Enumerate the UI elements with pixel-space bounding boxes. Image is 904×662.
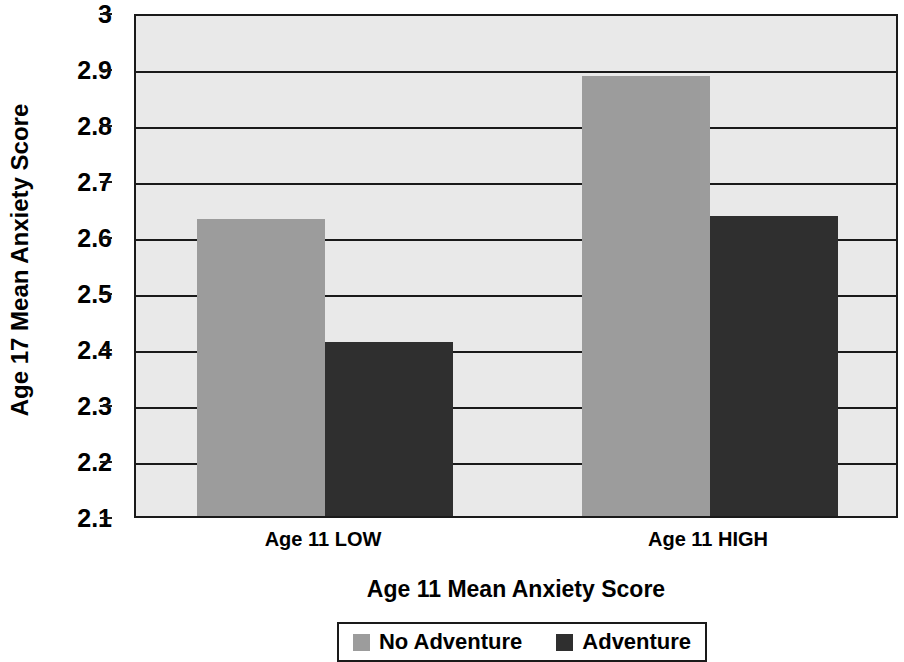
bar (710, 216, 838, 516)
x-axis-title: Age 11 Mean Anxiety Score (134, 576, 898, 603)
bar (582, 76, 710, 516)
legend-swatch-dark (556, 634, 573, 651)
x-axis-tick-label: Age 11 HIGH (588, 528, 828, 551)
y-axis-tick-mark (100, 69, 112, 71)
bar (325, 342, 453, 516)
legend-entry: Adventure (556, 629, 691, 655)
legend-entry: No Adventure (353, 629, 522, 655)
y-axis-tick-mark (100, 13, 112, 15)
gridline (136, 127, 896, 129)
y-axis-tick-mark (100, 293, 112, 295)
y-axis-title: Age 17 Mean Anxiety Score (0, 0, 40, 520)
gridline (136, 183, 896, 185)
bar (197, 219, 325, 516)
chart-legend: No AdventureAdventure (337, 622, 707, 662)
y-axis-tick-mark (100, 517, 112, 519)
legend-swatch-light (353, 634, 370, 651)
x-axis-title-label: Age 11 Mean Anxiety Score (367, 576, 665, 602)
y-axis-tick-mark (100, 125, 112, 127)
y-axis-title-label: Age 17 Mean Anxiety Score (6, 104, 34, 417)
gridline (136, 71, 896, 73)
y-axis-tick-mark (100, 181, 112, 183)
y-axis-tick-mark (100, 349, 112, 351)
y-axis-tick-mark (100, 405, 112, 407)
legend-label: Adventure (582, 629, 691, 655)
y-axis-tick-mark (100, 461, 112, 463)
y-axis-tick-labels: 32.92.82.72.62.52.42.32.22.1 (38, 0, 124, 532)
plot-area (134, 14, 898, 518)
y-axis-tick-mark (100, 237, 112, 239)
legend-label: No Adventure (379, 629, 522, 655)
x-axis-tick-labels: Age 11 LOWAge 11 HIGH (134, 528, 898, 560)
x-axis-tick-label: Age 11 LOW (203, 528, 443, 551)
